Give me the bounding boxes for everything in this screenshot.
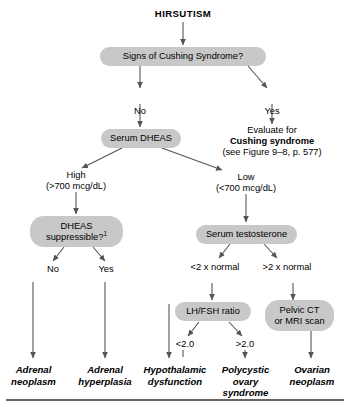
terminal-line: Adrenal — [68, 364, 142, 376]
node-signs-of-cushing-syndrome[interactable]: Signs of Cushing Syndrome? — [100, 47, 266, 66]
node-dheas-suppressible-line1: DHEAS — [60, 221, 92, 232]
terminal-line: Polycystic — [213, 364, 278, 376]
edge-label-dheas-high-value: (>700 mcg/dL) — [31, 181, 121, 192]
edge-label-dheas-low-value: (<700 mcg/dL) — [201, 183, 291, 194]
evaluate-line-2: Cushing syndrome — [212, 136, 332, 147]
evaluate-line-1: Evaluate for — [232, 125, 312, 136]
terminal-line: Adrenal — [3, 364, 64, 376]
terminal-line: Hypothalamic — [136, 364, 214, 376]
terminal-line: dysfunction — [136, 376, 214, 388]
terminal-polycystic-ovary-syndrome: Polycystic ovary syndrome — [213, 364, 278, 399]
node-serum-dheas[interactable]: Serum DHEAS — [101, 129, 181, 148]
node-pelvic-ct-mri[interactable]: Pelvic CT or MRI scan — [265, 300, 334, 331]
node-dheas-suppressible-line2: suppressible?1 — [46, 232, 107, 243]
edge-label-no-cushing: No — [120, 106, 160, 117]
terminal-line: neoplasm — [280, 376, 344, 388]
terminal-line: neoplasm — [3, 376, 64, 388]
figure-title: HIRSUTISM — [133, 8, 233, 19]
terminal-hypothalamic-dysfunction: Hypothalamic dysfunction — [136, 364, 214, 387]
edge-label-suppress-no: No — [33, 264, 73, 275]
edge-label-yes-cushing: Yes — [252, 106, 292, 117]
edge-label-lhfsh-low: <2.0 — [165, 339, 205, 350]
terminal-line: ovary — [213, 376, 278, 388]
edge-label-dheas-low: Low — [226, 172, 266, 183]
node-pelvic-ct-line2: or MRI scan — [274, 316, 324, 327]
edge-label-dheas-high: High — [56, 170, 96, 181]
evaluate-figure-reference: (see Figure 9–8, p. 577) — [208, 147, 336, 158]
node-pelvic-ct-line1: Pelvic CT — [280, 305, 320, 316]
terminal-line: hyperplasia — [68, 376, 142, 388]
edge-label-testosterone-high: >2 x normal — [254, 262, 320, 273]
edge-label-lhfsh-high: >2.0 — [225, 339, 265, 350]
edge-label-suppress-yes: Yes — [86, 264, 126, 275]
footnote-marker: 1 — [103, 229, 107, 236]
terminal-line: Ovarian — [280, 364, 344, 376]
edge-label-testosterone-low: <2 x normal — [182, 262, 248, 273]
terminal-adrenal-neoplasm: Adrenal neoplasm — [3, 364, 64, 387]
node-serum-testosterone[interactable]: Serum testosterone — [196, 225, 297, 244]
node-lh-fsh-ratio[interactable]: LH/FSH ratio — [175, 302, 251, 321]
node-dheas-suppressible[interactable]: DHEAS suppressible?1 — [30, 216, 123, 247]
terminal-adrenal-hyperplasia: Adrenal hyperplasia — [68, 364, 142, 387]
terminal-line: syndrome — [213, 387, 278, 399]
hirsutism-diagnostic-flowchart: HIRSUTISM Signs of Cushing Syndrome? No … — [0, 0, 350, 413]
terminal-ovarian-neoplasm: Ovarian neoplasm — [280, 364, 344, 387]
